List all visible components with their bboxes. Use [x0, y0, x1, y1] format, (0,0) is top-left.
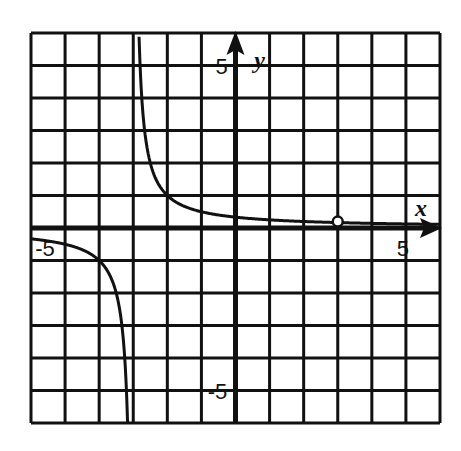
y-axis-label: y [251, 47, 265, 73]
curve-branch-1 [31, 239, 128, 423]
tick-label-y-5: 5 [215, 54, 227, 79]
axes [31, 31, 442, 423]
labels: x y -5 5 5 -5 [35, 47, 427, 404]
tick-label-x-5: 5 [397, 236, 409, 261]
x-axis-label: x [414, 195, 427, 221]
open-point-hole [333, 217, 343, 227]
tick-label-y-neg5: -5 [208, 379, 228, 404]
tick-label-x-neg5: -5 [35, 236, 55, 261]
graph: x y -5 5 5 -5 [0, 0, 461, 451]
